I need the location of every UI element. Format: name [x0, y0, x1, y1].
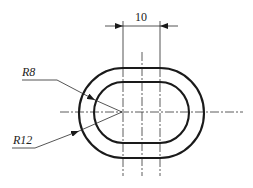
outer-radius-label: R12	[12, 133, 32, 147]
dimension-width-label: 10	[135, 10, 147, 24]
inner-slot-outline	[94, 82, 189, 143]
inner-radius-label: R8	[21, 65, 35, 79]
r8-leader-extension	[95, 100, 122, 112]
technical-drawing: 10 R8 R12	[0, 0, 253, 188]
r12-leader-extension	[79, 112, 122, 131]
